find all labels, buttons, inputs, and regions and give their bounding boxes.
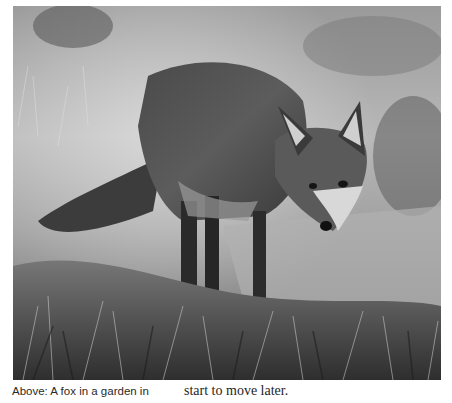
fox-photograph: [13, 6, 441, 380]
body-text-fragment: start to move later.: [184, 383, 288, 399]
fox-illustration: [13, 6, 441, 380]
figure-caption: Above: A fox in a garden in: [12, 385, 149, 397]
